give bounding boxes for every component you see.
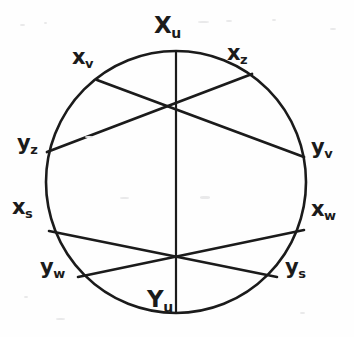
node-label-xs: xs: [12, 197, 33, 220]
node-label-Xu: Xu: [154, 14, 181, 40]
node-label-xv: xv: [72, 47, 94, 70]
node-label-yw-sub: w: [53, 266, 65, 281]
node-label-yv: yv: [311, 137, 333, 160]
node-label-Xu-sub: u: [171, 25, 181, 41]
circle-chord-diagram: [0, 0, 354, 337]
node-label-xs-base: x: [12, 195, 25, 219]
node-label-xz-sub: z: [240, 52, 248, 67]
node-label-Yu: Yu: [147, 288, 173, 314]
node-label-yv-base: y: [311, 135, 324, 159]
node-label-yw-base: y: [40, 255, 53, 279]
node-label-xw: xw: [311, 199, 336, 222]
node-label-Xu-base: X: [154, 12, 171, 38]
chord-xz-yz: [47, 74, 252, 152]
node-label-xs-sub: s: [25, 206, 33, 221]
node-label-yv-sub: v: [324, 146, 332, 161]
node-label-yz-base: y: [17, 131, 30, 155]
node-label-xz-base: x: [227, 41, 240, 65]
node-label-xv-base: x: [72, 45, 85, 69]
node-label-yz: yz: [17, 133, 38, 156]
node-label-Yu-sub: u: [163, 299, 173, 315]
node-label-yz-sub: z: [30, 142, 38, 157]
node-label-ys-sub: s: [298, 266, 306, 281]
node-label-ys: ys: [285, 257, 306, 280]
node-label-xv-sub: v: [85, 56, 93, 71]
node-label-xw-sub: w: [324, 208, 336, 223]
node-label-yw: yw: [40, 257, 65, 280]
node-label-xz: xz: [227, 43, 248, 66]
diagram-canvas: Xu xv xz yz yv xs xw yw ys Yu: [0, 0, 354, 337]
node-label-Yu-base: Y: [147, 286, 163, 312]
chord-xs-ys: [49, 231, 277, 277]
chord-xv-yv: [97, 80, 304, 157]
node-label-xw-base: x: [311, 197, 324, 221]
node-label-ys-base: y: [285, 255, 298, 279]
chord-xw-yw: [78, 230, 304, 277]
